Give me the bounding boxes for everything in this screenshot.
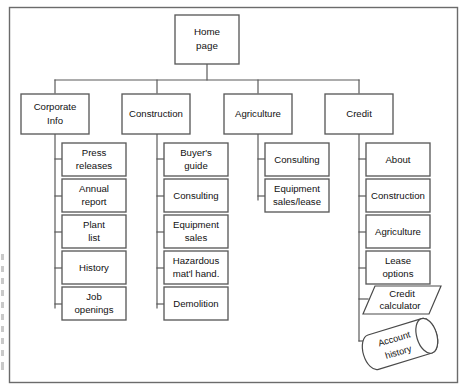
scan-edge-marks — [1, 254, 4, 370]
node-credit[interactable]: Credit — [325, 94, 393, 134]
node-credit-agriculture[interactable]: Agriculture — [366, 215, 430, 248]
node-construction-consulting[interactable]: Consulting — [164, 179, 228, 212]
node-history-label: History — [79, 262, 109, 273]
node-annual-report-line-2: report — [81, 196, 106, 207]
node-home-page-line-1: Home — [194, 26, 221, 37]
node-buyers-guide-line-2: guide — [184, 160, 207, 171]
node-job-openings-line-2: openings — [75, 304, 114, 315]
node-equipment-sales-lease-line-2: sales/lease — [273, 196, 321, 207]
node-hazardous-material-handling[interactable]: Hazardous mat'l hand. — [164, 251, 228, 284]
node-credit-agriculture-label: Agriculture — [375, 226, 421, 237]
node-press-releases-line-2: releases — [76, 160, 112, 171]
node-credit-about[interactable]: About — [366, 143, 430, 176]
node-press-releases[interactable]: Press releases — [62, 143, 126, 176]
node-job-openings-line-1: Job — [86, 291, 101, 302]
node-credit-construction[interactable]: Construction — [366, 179, 430, 212]
node-account-history[interactable]: Account history — [358, 316, 441, 373]
node-construction-consulting-label: Consulting — [173, 190, 218, 201]
node-credit-about-label: About — [385, 154, 410, 165]
node-corporate-info-line-2: Info — [47, 115, 63, 126]
node-credit-construction-label: Construction — [371, 190, 425, 201]
node-agriculture-consulting[interactable]: Consulting — [265, 143, 329, 176]
node-job-openings[interactable]: Job openings — [62, 287, 126, 320]
node-press-releases-line-1: Press — [82, 147, 107, 158]
node-history[interactable]: History — [62, 251, 126, 284]
node-equipment-sales-lease-line-1: Equipment — [274, 183, 320, 194]
node-plant-list[interactable]: Plant list — [62, 215, 126, 248]
node-credit-calculator[interactable]: Credit calculator — [363, 286, 441, 314]
node-annual-report[interactable]: Annual report — [62, 179, 126, 212]
node-credit-calculator-line-2: calculator — [379, 300, 421, 311]
node-buyers-guide-line-1: Buyer's — [180, 147, 212, 158]
node-lease-options[interactable]: Lease options — [366, 251, 430, 284]
node-buyers-guide[interactable]: Buyer's guide — [164, 143, 228, 176]
site-map-diagram: Home page Corporate Info Construction Ag… — [0, 0, 465, 390]
node-credit-label: Credit — [346, 108, 372, 119]
node-construction[interactable]: Construction — [122, 94, 190, 134]
node-agriculture-consulting-label: Consulting — [274, 154, 319, 165]
node-equipment-sales-line-1: Equipment — [173, 219, 219, 230]
node-home-page-line-2: page — [196, 40, 218, 51]
node-plant-list-line-1: Plant — [83, 219, 105, 230]
node-agriculture-label: Agriculture — [235, 108, 281, 119]
node-construction-label: Construction — [129, 108, 183, 119]
diagram-canvas: Home page Corporate Info Construction Ag… — [0, 0, 465, 390]
node-lease-options-line-1: Lease — [385, 255, 411, 266]
node-corporate-info[interactable]: Corporate Info — [21, 94, 89, 134]
node-plant-list-line-2: list — [88, 232, 100, 243]
node-equipment-sales-line-2: sales — [185, 232, 208, 243]
node-agriculture[interactable]: Agriculture — [224, 94, 292, 134]
node-demolition[interactable]: Demolition — [164, 287, 228, 320]
node-hazardous-material-handling-line-1: Hazardous — [173, 255, 220, 266]
node-home-page[interactable]: Home page — [175, 15, 239, 64]
node-lease-options-line-2: options — [383, 268, 414, 279]
node-corporate-info-line-1: Corporate — [34, 101, 77, 112]
node-equipment-sales[interactable]: Equipment sales — [164, 215, 228, 248]
node-credit-calculator-line-1: Credit — [389, 288, 415, 299]
node-annual-report-line-1: Annual — [79, 183, 109, 194]
node-hazardous-material-handling-line-2: mat'l hand. — [173, 268, 220, 279]
node-equipment-sales-lease[interactable]: Equipment sales/lease — [265, 179, 329, 212]
node-demolition-label: Demolition — [173, 298, 218, 309]
